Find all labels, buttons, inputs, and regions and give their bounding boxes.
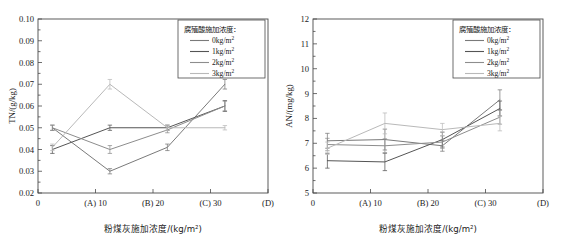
chart-panel-left: 0.020.030.040.050.060.070.080.090.10 0(A… [0,0,281,245]
x-tick-label: (B) 20 [417,198,439,208]
tn-y-axis-title-text: TN/(g/kg) [7,88,17,124]
an-legend: 腐殖酸施加浓度：0kg/m21kg/m22kg/m23kg/m2 [453,20,540,78]
figure-container: 0.020.030.040.050.060.070.080.090.10 0(A… [0,0,562,245]
y-tick-label: 5 [305,188,309,198]
tn-x-axis-title-prefix: 粉煤灰施加浓度/(kg/m [104,223,195,234]
legend-entry-sup: 2 [231,46,234,52]
tn-x-axis-title: 粉煤灰施加浓度/(kg/m2) [104,223,202,234]
an-y-axis: 56789101112 [300,14,317,198]
legend-entry-sup: 2 [506,68,509,74]
x-tick-label: 0 [311,198,315,208]
tn-y-axis-title: TN/(g/kg) [7,88,17,124]
x-tick-label: (C) 30 [474,198,496,208]
an-x-axis-title-suffix: ) [474,224,477,234]
svg-text:粉煤灰施加浓度/(kg/m2): 粉煤灰施加浓度/(kg/m2) [379,223,477,234]
y-tick-label: 10 [300,64,309,74]
tn-x-axis: 0(A) 10(B) 20(C) 30(D) [36,189,274,208]
legend-entry-sup: 2 [231,57,234,63]
legend-entry-label-3: 3kg/m2 [487,68,509,78]
y-tick-label: 6 [305,163,310,173]
y-tick-label: 0.10 [19,14,34,24]
legend-title: 腐殖酸施加浓度： [184,25,240,34]
y-tick-label: 0.08 [19,58,34,68]
y-tick-label: 12 [300,14,309,24]
tn-series-group [50,79,227,173]
tn-x-axis-title-suffix: ) [199,224,202,234]
legend-entry-sup: 2 [506,35,509,41]
legend-entry-label-0: 0kg/m2 [212,35,234,45]
y-tick-label: 0.03 [19,166,34,176]
legend-entry-label-2: 2kg/m2 [212,57,234,67]
y-tick-label: 0.09 [19,36,34,46]
error-bar [223,79,227,89]
legend-entry-label-0: 0kg/m2 [487,35,509,45]
x-tick-label: 0 [36,198,40,208]
error-bar [108,79,112,89]
error-bar [50,125,54,130]
an-series-group [325,90,502,171]
legend-entry-label-1: 1kg/m2 [487,46,509,56]
an-y-axis-title-text: AN/(mg/kg) [284,84,294,128]
series-line-3 [327,123,500,148]
series-line-1 [327,108,500,161]
an-y-axis-title: AN/(mg/kg) [284,84,294,128]
error-bar [223,101,227,111]
y-tick-label: 0.05 [19,123,34,133]
an-x-axis: 0(A) 10(B) 20(C) 30(D) [311,189,549,208]
x-tick-label: (A) 10 [359,198,382,208]
y-tick-label: 7 [305,138,310,148]
y-tick-label: 0.04 [19,145,35,155]
legend-entry-sup: 2 [231,35,234,41]
y-tick-label: 0.07 [19,79,35,89]
legend-entry-sup: 2 [506,46,509,52]
y-tick-label: 0.06 [19,101,35,111]
legend-entry-sup: 2 [231,68,234,74]
y-tick-label: 0.02 [19,188,34,198]
x-tick-label: (A) 10 [84,198,107,208]
an-x-axis-title: 粉煤灰施加浓度/(kg/m2) [379,223,477,234]
x-tick-label: (D) [262,198,274,208]
an-x-axis-title-prefix: 粉煤灰施加浓度/(kg/m [379,223,470,234]
legend-entry-label-3: 3kg/m2 [212,68,234,78]
chart-panel-right: 56789101112 0(A) 10(B) 20(C) 30(D) AN/(m… [281,0,562,245]
legend-entry-sup: 2 [506,57,509,63]
legend-entry-label-1: 1kg/m2 [212,46,234,56]
x-tick-label: (C) 30 [199,198,221,208]
legend-entry-label-2: 2kg/m2 [487,57,509,67]
tn-chart-svg: 0.020.030.040.050.060.070.080.090.10 0(A… [0,0,281,245]
an-chart-svg: 56789101112 0(A) 10(B) 20(C) 30(D) AN/(m… [281,0,562,245]
svg-text:粉煤灰施加浓度/(kg/m2): 粉煤灰施加浓度/(kg/m2) [104,223,202,234]
series-line-2 [327,117,500,146]
error-bar [108,169,112,174]
legend-title: 腐殖酸施加浓度： [459,25,515,34]
y-tick-label: 8 [305,113,309,123]
tn-legend: 腐殖酸施加浓度：0kg/m21kg/m22kg/m23kg/m2 [178,20,265,78]
x-tick-label: (D) [537,198,549,208]
tn-y-axis: 0.020.030.040.050.060.070.080.090.10 [19,14,42,198]
y-tick-label: 11 [301,39,309,49]
x-tick-label: (B) 20 [142,198,164,208]
y-tick-label: 9 [305,89,309,99]
